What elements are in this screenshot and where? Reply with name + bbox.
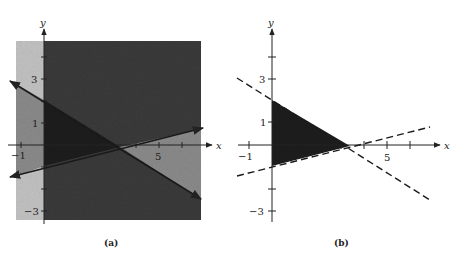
- upper-boundary-dashed-line: [237, 78, 430, 200]
- y-tick-label-3: 3: [259, 74, 265, 85]
- caption-a: (a): [104, 238, 118, 248]
- x-axis-label: x: [216, 140, 222, 151]
- y-tick-label-neg3: −3: [249, 206, 264, 217]
- x-tick-label-neg1: −1: [238, 151, 253, 162]
- caption-b: (b): [334, 238, 349, 248]
- y-tick-label-1: 1: [260, 117, 266, 128]
- y-tick-label-neg3: −3: [24, 206, 39, 217]
- x-tick-label-neg1: −1: [11, 150, 26, 161]
- x-tick-label-5: 5: [155, 151, 161, 162]
- panel-b: y x 3 1 −1 5 −3 (b): [237, 17, 450, 248]
- panel-a: y x 3 1 −1 5 −3 (a): [8, 17, 222, 248]
- y-axis-label: y: [39, 17, 46, 28]
- y-axis-label: y: [267, 17, 274, 28]
- y-tick-label-1: 1: [32, 118, 38, 129]
- x-tick-label-5: 5: [384, 152, 390, 163]
- lower-boundary-dashed-line: [237, 127, 430, 176]
- feasible-triangle-region: [272, 100, 350, 166]
- figure: y x 3 1 −1 5 −3 (a) y x 3: [0, 0, 457, 261]
- y-tick-label-3: 3: [31, 74, 37, 85]
- x-axis-label: x: [444, 140, 450, 151]
- left-strip-between-lines: [16, 84, 44, 176]
